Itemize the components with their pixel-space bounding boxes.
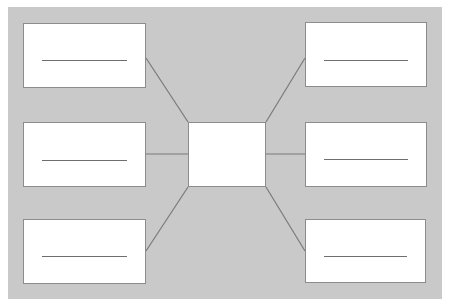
blank-line — [324, 256, 407, 257]
box-top-left[interactable] — [23, 23, 146, 88]
connector-bottom-left — [146, 187, 188, 251]
blank-line — [324, 159, 408, 160]
blank-line — [324, 60, 408, 61]
connector-top-left — [146, 58, 188, 122]
box-bottom-left[interactable] — [23, 219, 146, 284]
connector-bottom-right — [266, 187, 305, 251]
blank-line — [42, 256, 127, 257]
center-box[interactable] — [188, 122, 266, 187]
box-middle-left[interactable] — [23, 122, 146, 187]
connector-top-right — [266, 58, 305, 122]
blank-line — [42, 60, 127, 61]
box-top-right[interactable] — [305, 22, 427, 87]
blank-line — [42, 160, 127, 161]
box-bottom-right[interactable] — [305, 219, 426, 283]
box-middle-right[interactable] — [305, 122, 427, 187]
